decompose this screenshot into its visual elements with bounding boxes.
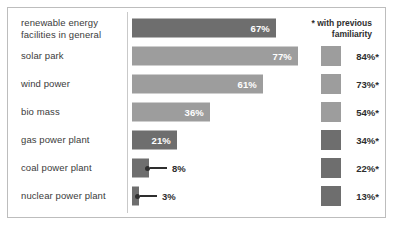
familiarity-value-label: 34%* (344, 135, 379, 146)
chart-row: nuclear power plant3%13%* (8, 182, 385, 210)
row-category-label-line2: facilities in general (21, 28, 121, 40)
row-category-label: renewable energyfacilities in general (21, 17, 121, 40)
familiarity-cell: 22%* (8, 154, 385, 182)
familiarity-swatch (321, 186, 341, 206)
familiarity-cell: 34%* (8, 126, 385, 154)
familiarity-cell: 84%* (8, 42, 385, 70)
familiarity-value-label: 73%* (344, 79, 379, 90)
familiarity-cell: 73%* (8, 70, 385, 98)
familiarity-swatch (321, 102, 341, 122)
chart-row: bio mass36%54%* (8, 98, 385, 126)
chart-row: renewable energyfacilities in general67% (8, 14, 385, 42)
familiarity-cell: 54%* (8, 98, 385, 126)
familiarity-swatch (321, 130, 341, 150)
chart-row: solar park77%84%* (8, 42, 385, 70)
bar-value-label: 67% (250, 23, 270, 34)
familiarity-value-label: 54%* (344, 107, 379, 118)
chart-row: gas power plant21%34%* (8, 126, 385, 154)
familiarity-swatch (321, 74, 341, 94)
chart-container: * with previous familiarity renewable en… (7, 7, 386, 218)
familiarity-value-label: 22%* (344, 163, 379, 174)
value-bar[interactable]: 67% (132, 19, 276, 38)
familiarity-value-label: 84%* (344, 51, 379, 62)
familiarity-swatch (321, 158, 341, 178)
chart-row: coal power plant8%22%* (8, 154, 385, 182)
familiarity-cell: 13%* (8, 182, 385, 210)
row-category-label-line1: renewable energy (21, 17, 121, 29)
familiarity-swatch (321, 46, 341, 66)
bar-zone: 67% (132, 14, 385, 42)
chart-row: wind power61%73%* (8, 70, 385, 98)
familiarity-value-label: 13%* (344, 191, 379, 202)
